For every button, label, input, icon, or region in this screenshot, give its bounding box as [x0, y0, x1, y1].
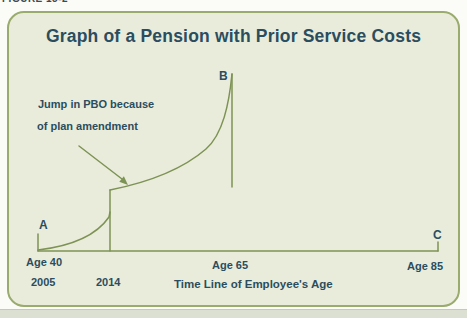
axis-label-age-85: Age 85 — [407, 261, 443, 272]
axis-label-year-2005: 2005 — [31, 277, 55, 288]
point-label-a: A — [39, 219, 48, 231]
pbo-curve-pre-amendment — [38, 212, 110, 250]
pbo-curve-post-amendment — [110, 74, 232, 190]
page-edge-strip — [0, 309, 467, 318]
timeline-axis-title: Time Line of Employee's Age — [174, 279, 333, 291]
annotation-arrow-shaft — [79, 146, 122, 179]
annotation-line-2: of plan amendment — [37, 121, 138, 132]
figure-page: FIGURE 15-2 Graph of a Pension with Prio… — [0, 0, 467, 318]
axis-label-age-40: Age 40 — [26, 257, 62, 268]
annotation-line-1: Jump in PBO because — [38, 99, 154, 110]
point-label-c: C — [433, 229, 442, 241]
point-label-b: B — [219, 70, 228, 82]
axis-label-age-65: Age 65 — [212, 260, 248, 271]
axis-label-year-2014: 2014 — [96, 277, 120, 288]
